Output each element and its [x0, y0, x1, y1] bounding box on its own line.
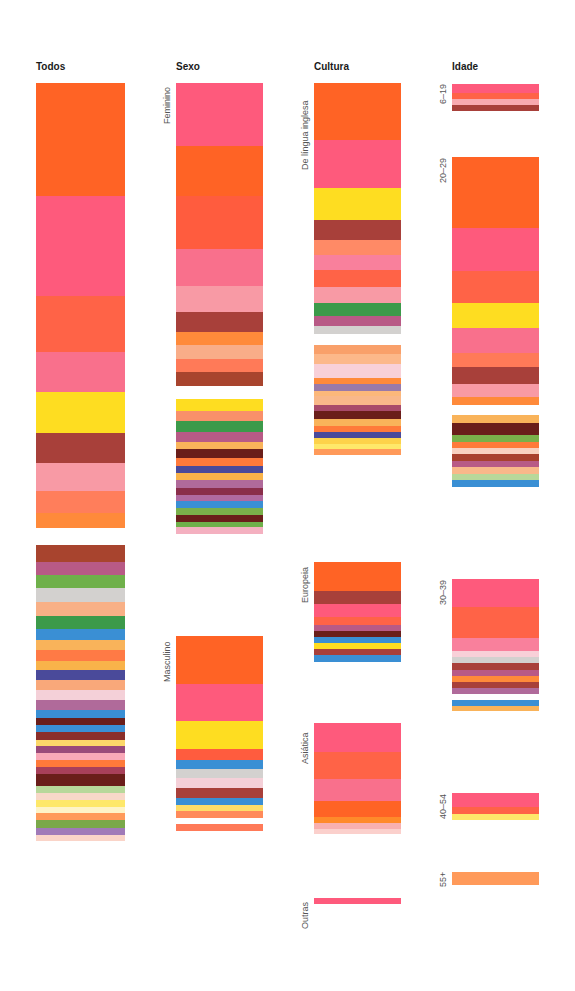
band-segment [36, 575, 125, 588]
band-segment [314, 562, 401, 591]
band-segment [452, 303, 539, 328]
band-segment [36, 753, 125, 760]
band-segment [176, 778, 263, 788]
band-segment [36, 392, 125, 433]
band-segment [36, 828, 125, 835]
group-label: Feminino [162, 87, 172, 124]
band-segment [314, 287, 401, 303]
band-segment [176, 449, 263, 458]
group-label: 6–19 [438, 84, 448, 104]
band-segment [176, 345, 263, 359]
band-segment [452, 435, 539, 442]
band-segment [36, 767, 125, 774]
band-segment [314, 617, 401, 625]
band-segment [176, 399, 263, 411]
band-segment [176, 480, 263, 488]
column-title-cultura: Cultura [314, 61, 349, 72]
band-segment [452, 607, 539, 638]
band-segment [452, 480, 539, 487]
stack-block [36, 545, 125, 841]
stack-block [452, 157, 539, 405]
band-segment [314, 303, 401, 316]
band-segment [314, 411, 401, 419]
band-segment [36, 774, 125, 786]
band-segment [314, 270, 401, 287]
group-label: Masculino [162, 641, 172, 682]
band-segment [176, 788, 263, 798]
group-label: 20–29 [438, 157, 448, 182]
band-segment [452, 688, 539, 694]
band-segment [452, 328, 539, 353]
band-segment [36, 562, 125, 575]
band-segment [176, 527, 263, 534]
band-segment [176, 83, 263, 146]
band-segment [314, 723, 401, 752]
band-segment [176, 721, 263, 749]
band-segment [452, 415, 539, 423]
band-segment [452, 579, 539, 607]
band-segment [452, 423, 539, 435]
stack-block [452, 872, 539, 885]
band-segment [36, 640, 125, 650]
band-segment [452, 467, 539, 474]
band-segment [314, 384, 401, 391]
band-segment [314, 240, 401, 255]
band-segment [36, 700, 125, 710]
band-segment [176, 146, 263, 196]
band-segment [314, 655, 401, 662]
band-segment [36, 786, 125, 793]
band-segment [452, 271, 539, 303]
band-segment [176, 824, 263, 831]
band-segment [36, 725, 125, 732]
band-segment [314, 801, 401, 817]
band-segment [176, 196, 263, 249]
stack-block [452, 793, 539, 820]
band-segment [176, 749, 263, 760]
band-segment [452, 367, 539, 384]
group-label: Outras [300, 902, 310, 929]
band-segment [176, 769, 263, 778]
band-segment [176, 501, 263, 508]
band-segment [176, 421, 263, 432]
band-segment [176, 798, 263, 805]
band-segment [36, 670, 125, 680]
band-segment [452, 814, 539, 820]
stack-block [452, 415, 539, 487]
stack-block [314, 898, 401, 904]
band-segment [452, 454, 539, 461]
band-segment [176, 636, 263, 684]
stack-block [452, 84, 539, 111]
band-segment [36, 820, 125, 828]
band-segment [36, 602, 125, 616]
band-segment [176, 249, 263, 286]
band-segment [176, 508, 263, 515]
band-segment [314, 345, 401, 354]
band-segment [452, 663, 539, 670]
band-segment [314, 255, 401, 270]
stack-block [314, 345, 401, 455]
band-segment [314, 779, 401, 801]
band-segment [314, 220, 401, 240]
band-segment [314, 83, 401, 140]
band-segment [36, 296, 125, 352]
band-segment [36, 463, 125, 491]
band-segment [314, 898, 401, 904]
band-segment [36, 616, 125, 629]
band-segment [314, 419, 401, 426]
band-segment [36, 83, 125, 196]
band-segment [314, 326, 401, 334]
band-segment [176, 432, 263, 442]
band-segment [452, 807, 539, 814]
band-segment [314, 829, 401, 834]
stack-block [314, 723, 401, 834]
column-title-sexo: Sexo [176, 61, 200, 72]
stack-block [176, 399, 263, 534]
band-segment [36, 718, 125, 725]
band-segment [176, 760, 263, 769]
band-segment [36, 196, 125, 296]
stack-block [314, 83, 401, 334]
band-segment [36, 793, 125, 800]
band-segment [452, 228, 539, 271]
stack-block [452, 579, 539, 711]
band-segment [36, 545, 125, 562]
